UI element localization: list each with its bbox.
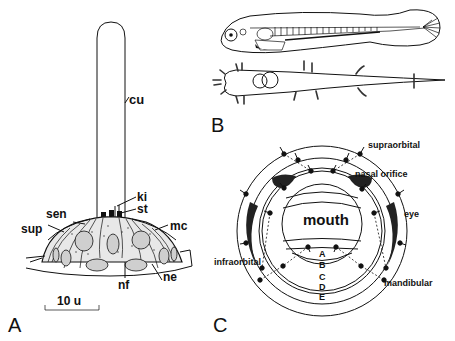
pupil [229,33,233,37]
cupula [97,22,125,218]
mouth-lower-line-1 [283,239,361,242]
ring-label-b: B [319,260,326,270]
skin-detail [30,258,42,262]
label-sen: sen [46,207,67,221]
ring-label-a: A [319,249,326,259]
panel-label-b: B [211,114,224,136]
heart [255,44,268,50]
ring-label-c: C [319,272,326,282]
label-infraorbital: infraorbital [214,257,261,267]
otic-vesicle [240,29,246,35]
label-st: st [137,202,148,216]
scale-bar-label: 10 u [57,294,81,308]
gut [255,40,285,50]
caudal-fin-rays [423,18,440,37]
leader-sup [48,225,64,232]
label-nasal-orifice: nasal orifice [355,169,408,179]
figure-canvas: cu ki st sen sup mc nf ne 10 u A [0,0,455,341]
leader-st [121,209,136,213]
panel-a-neuromast: cu ki st sen sup mc nf ne 10 u A [8,22,192,336]
ring-label-e: E [319,292,325,302]
label-mc: mc [170,219,188,233]
eye-left [246,202,258,265]
panel-label-a: A [8,314,22,336]
label-supraorbital: supraorbital [368,140,420,150]
label-mandibular: mandibular [384,278,433,288]
label-ne: ne [163,270,177,284]
label-sup: sup [21,222,42,236]
mouth-upper-line-2 [283,202,361,208]
skin-line-left [26,256,45,258]
label-eye: eye [404,209,419,219]
label-cu: cu [129,92,144,107]
label-nf: nf [118,278,130,292]
eye-right [386,202,398,265]
swim-bladder [257,28,273,40]
panel-b-larva: B [211,10,445,136]
larva-lateral-view [221,10,440,53]
label-mouth: mouth [303,211,349,228]
panel-label-c: C [213,314,227,336]
leader-ki [117,197,136,206]
myotomes [275,27,377,36]
neuromasts [213,61,414,104]
skin-line-right [180,250,192,266]
swim-bladder-dorsal [262,72,278,88]
panel-c-head-canals: A B C D E mouth supraorbital nasal orifi… [213,140,433,336]
ring-label-d: D [319,282,326,292]
larva-dorsal-view [213,61,445,104]
leader-ne [152,264,162,280]
